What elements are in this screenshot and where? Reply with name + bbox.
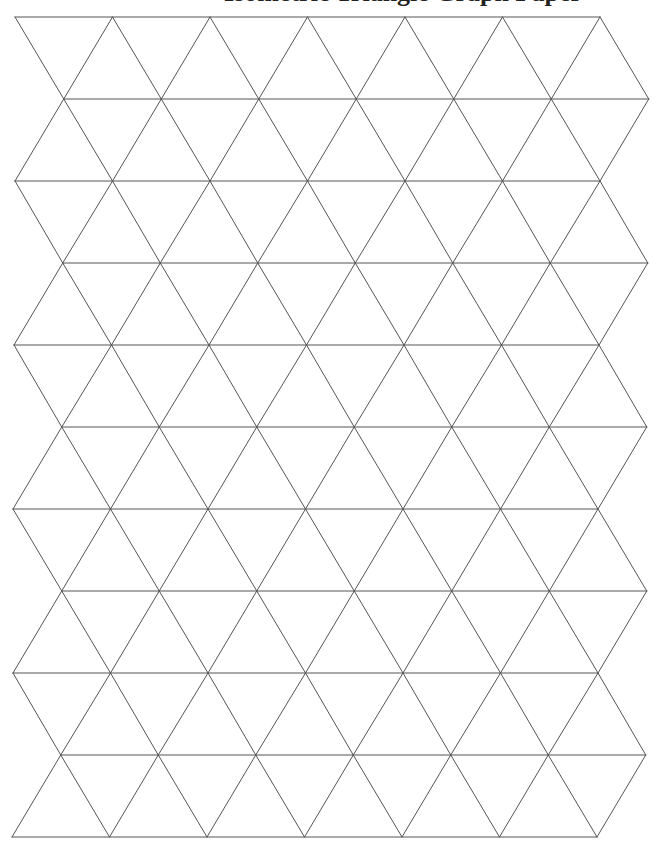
diagonal-grid-line (501, 509, 550, 591)
diagonal-grid-line (548, 673, 598, 755)
diagonal-grid-line (112, 263, 161, 345)
diagonal-grid-line (257, 591, 306, 673)
diagonal-grid-line (13, 591, 62, 673)
diagonal-grid-line (13, 427, 62, 509)
diagonal-grid-line (598, 591, 647, 673)
diagonal-grid-line (403, 427, 452, 509)
diagonal-grid-line (599, 345, 647, 427)
diagonal-grid-line (501, 673, 549, 755)
diagonal-grid-line (356, 17, 405, 99)
diagonal-grid-line (405, 17, 454, 99)
diagonal-grid-line (208, 509, 257, 591)
diagonal-grid-line (308, 17, 357, 99)
diagonal-grid-line (306, 673, 354, 755)
diagonal-grid-line (207, 755, 256, 837)
diagonal-grid-line (259, 99, 308, 181)
diagonal-grid-line (13, 673, 61, 755)
diagonal-grid-line (13, 509, 62, 591)
diagonal-grid-line (113, 181, 161, 263)
diagonal-grid-line (453, 263, 502, 345)
diagonal-grid-line (503, 181, 551, 263)
diagonal-grid-line (598, 427, 647, 509)
diagonal-grid-line (111, 509, 160, 591)
diagonal-grid-line (63, 181, 113, 263)
diagonal-grid-line (502, 263, 551, 345)
diagonal-grid-line (404, 345, 452, 427)
diagonal-grid-line (158, 755, 207, 837)
diagonal-grid-line (161, 17, 210, 99)
diagonal-grid-line (208, 427, 257, 509)
diagonal-grid-line (549, 345, 599, 427)
diagonal-grid-line (15, 99, 64, 181)
diagonal-grid-line (161, 99, 210, 181)
diagonal-grid-line (256, 755, 305, 837)
diagonal-grid-line (306, 591, 355, 673)
diagonal-grid-line (598, 509, 647, 591)
diagonal-grid-line (353, 673, 403, 755)
diagonal-grid-line (548, 755, 597, 837)
diagonal-grid-line (306, 427, 355, 509)
diagonal-grid-line (405, 99, 454, 181)
diagonal-grid-line (159, 591, 208, 673)
diagonal-grid-line (353, 755, 402, 837)
diagonal-grid-line (600, 99, 649, 181)
diagonal-grid-line (62, 345, 112, 427)
diagonal-grid-line (403, 509, 452, 591)
diagonal-grid-line (209, 345, 257, 427)
diagonal-grid-line (404, 263, 453, 345)
diagonal-grid-line (257, 509, 306, 591)
diagonal-grid-line (110, 755, 159, 837)
diagonal-grid-line (111, 591, 160, 673)
diagonal-grid-line (15, 181, 63, 263)
diagonal-grid-line (597, 755, 646, 837)
diagonal-grid-line (308, 99, 357, 181)
diagonal-grid-line (502, 345, 550, 427)
diagonal-grid-line (551, 99, 600, 181)
diagonal-grid-line (405, 181, 453, 263)
diagonal-grid-line (500, 755, 549, 837)
diagonal-grid-line (209, 263, 258, 345)
diagonal-grid-line (402, 755, 451, 837)
diagonal-grid-line (551, 17, 600, 99)
diagonal-grid-line (15, 17, 64, 99)
diagonal-grid-line (501, 427, 550, 509)
diagonal-grid-line (61, 755, 110, 837)
diagonal-grid-line (355, 263, 404, 345)
diagonal-grid-line (159, 509, 208, 591)
diagonal-grid-line (354, 345, 404, 427)
diagonal-grid-line (159, 345, 209, 427)
diagonal-grid-line (600, 17, 649, 99)
diagonal-grid-line (452, 591, 501, 673)
diagonal-grid-line (451, 673, 501, 755)
diagonal-grid-line (113, 17, 162, 99)
diagonal-grid-line (258, 181, 308, 263)
diagonal-grid-line (549, 591, 598, 673)
diagonal-grid-line (403, 673, 451, 755)
diagonal-grid-line (208, 591, 257, 673)
diagonal-grid-line (354, 427, 403, 509)
diagonal-grid-line (503, 99, 552, 181)
diagonal-grid-line (550, 181, 600, 263)
diagonal-grid-line (305, 755, 354, 837)
diagonal-grid-line (14, 263, 63, 345)
diagonal-grid-line (454, 99, 503, 181)
diagonal-grid-line (62, 591, 111, 673)
diagonal-grid-line (113, 99, 162, 181)
triangle-grid (0, 0, 666, 855)
diagonal-grid-line (257, 345, 307, 427)
diagonal-grid-line (501, 591, 550, 673)
diagonal-grid-line (549, 509, 598, 591)
diagonal-grid-line (160, 263, 209, 345)
diagonal-grid-line (61, 673, 111, 755)
diagonal-grid-line (62, 509, 111, 591)
diagonal-grid-line (257, 427, 306, 509)
diagonal-grid-line (63, 263, 112, 345)
diagonal-grid-line (160, 181, 210, 263)
diagonal-grid-line (307, 263, 356, 345)
diagonal-grid-line (112, 345, 160, 427)
diagonal-grid-line (208, 673, 256, 755)
graph-paper-page: Isometric Triangle Graph Paper (0, 0, 666, 855)
diagonal-grid-line (454, 17, 503, 99)
diagonal-grid-line (550, 263, 599, 345)
diagonal-grid-line (210, 17, 259, 99)
